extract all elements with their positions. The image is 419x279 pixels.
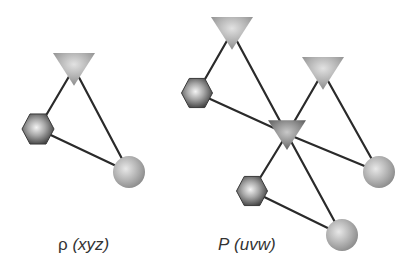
rho-symbol: ρ <box>58 235 68 254</box>
hexagon-node-icon <box>22 114 54 144</box>
nodes-layer <box>22 17 395 251</box>
triangle-node-icon <box>53 53 95 86</box>
edge-right-t2-c1 <box>323 72 379 172</box>
edge-right-tc-c2 <box>287 134 342 235</box>
circle-node-icon <box>363 156 395 188</box>
triangle-node-icon <box>268 120 306 150</box>
circle-node-icon <box>113 156 145 188</box>
triangle-node-icon <box>211 17 253 50</box>
hexagon-node-icon <box>182 78 213 107</box>
left-label-args: (xyz) <box>72 235 109 254</box>
hexagon-node-icon <box>237 176 268 205</box>
p-symbol: P <box>218 235 230 254</box>
left-diagram-label: ρ (xyz) <box>58 235 109 254</box>
right-label-args: (uvw) <box>234 235 276 254</box>
triangle-node-icon <box>302 57 344 90</box>
edge-left-t1-c1 <box>74 68 129 172</box>
right-diagram-label: P (uvw) <box>218 235 276 254</box>
circle-node-icon <box>326 219 358 251</box>
diagram-canvas: ρ (xyz) P (uvw) <box>0 0 419 279</box>
edge-right-t1-tc <box>232 32 287 134</box>
